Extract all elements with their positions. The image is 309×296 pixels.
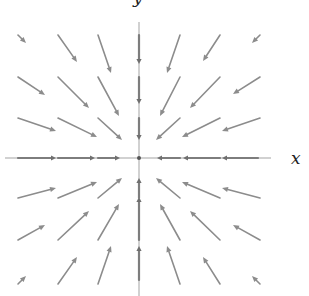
arrowhead-icon: [107, 246, 112, 253]
vector-arrow: [18, 118, 56, 132]
axis-vector-arrow: [136, 178, 141, 198]
vector-arrow: [222, 187, 260, 198]
vector-arrow: [18, 276, 26, 284]
vector-arrow: [98, 204, 119, 240]
vector-arrow: [182, 182, 220, 198]
axis-vector-arrow: [157, 155, 180, 160]
axis-vector-arrow: [136, 35, 141, 64]
axis-vector-arrow: [222, 155, 258, 160]
arrowhead-icon: [90, 155, 95, 160]
arrowhead-icon: [222, 127, 229, 132]
vector-arrow: [98, 118, 122, 140]
vector-arrow: [58, 35, 77, 62]
vector-arrow: [58, 211, 89, 240]
vector-arrow: [98, 246, 112, 284]
vector-arrow: [160, 204, 180, 240]
vector-arrow: [166, 35, 180, 73]
arrowhead-icon: [166, 66, 171, 73]
axis-vector-arrow: [136, 197, 141, 240]
arrowhead-icon: [49, 127, 56, 132]
vector-arrow: [203, 35, 220, 61]
vector-arrow: [160, 77, 180, 116]
vector-arrow: [18, 187, 56, 198]
vector-arrow: [252, 35, 260, 43]
vector-arrow: [190, 211, 220, 240]
arrowhead-icon: [222, 155, 227, 160]
vector-field-diagram: x y: [0, 0, 309, 296]
arrowhead-icon: [136, 135, 141, 140]
vector-arrow: [190, 77, 220, 108]
arrowhead-icon: [136, 178, 141, 183]
arrowhead-icon: [136, 246, 141, 251]
arrowhead-icon: [51, 155, 56, 160]
arrowhead-icon: [157, 155, 162, 160]
arrowhead-icon: [50, 187, 56, 192]
vector-arrow: [222, 118, 260, 132]
vector-arrow: [98, 35, 112, 73]
vector-arrow: [58, 182, 97, 198]
vector-arrow: [18, 225, 45, 240]
arrowhead-icon: [115, 155, 120, 160]
axis-vector-arrow: [98, 155, 120, 160]
arrowhead-icon: [183, 155, 188, 160]
vector-arrow: [233, 77, 260, 94]
arrowhead-icon: [136, 59, 141, 64]
axis-vector-arrow: [18, 155, 56, 160]
axis-vector-arrow: [136, 77, 141, 104]
y-axis-label: y: [132, 0, 143, 7]
vector-arrow: [18, 77, 45, 95]
vector-arrow: [233, 225, 260, 240]
vector-arrow: [98, 178, 122, 198]
axis-vector-arrow: [183, 155, 220, 160]
vector-arrow: [156, 178, 180, 198]
vector-arrow: [252, 276, 260, 284]
arrowhead-icon: [136, 99, 141, 104]
vector-arrow: [182, 118, 220, 137]
vector-arrow: [58, 257, 77, 284]
origin-point: [137, 156, 141, 160]
vector-arrow: [156, 118, 180, 140]
x-axis-label: x: [291, 148, 301, 168]
arrowhead-icon: [107, 66, 112, 73]
vector-arrow: [58, 77, 89, 108]
vector-arrow: [18, 35, 26, 43]
vector-arrow: [98, 77, 119, 116]
arrowhead-icon: [222, 187, 228, 192]
vector-arrow: [166, 246, 180, 284]
axis-vector-arrow: [136, 118, 141, 140]
axis-vector-arrow: [136, 246, 141, 280]
arrowhead-icon: [166, 246, 171, 253]
vector-arrow: [58, 118, 97, 137]
axis-vector-arrow: [58, 155, 95, 160]
vector-arrow: [203, 257, 220, 284]
